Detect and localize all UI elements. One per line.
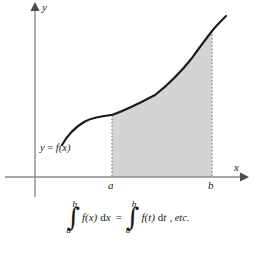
right-integral-lower-limit: a xyxy=(126,225,131,235)
left-integrand: f(x) xyxy=(82,211,97,223)
integral-figure: y x a b y = f(x) b ∫ a f(x) dx = b ∫ a f… xyxy=(0,0,255,257)
curve-label-equals: = xyxy=(45,142,56,153)
right-differential-var: t xyxy=(163,211,166,223)
y-axis-arrowhead xyxy=(30,2,39,11)
right-integrand: f(t) xyxy=(141,211,154,223)
x-axis-label: x xyxy=(234,162,239,173)
equation-equals-sign: = xyxy=(116,211,122,223)
right-differential: dt xyxy=(158,211,167,223)
tick-label-a: a xyxy=(108,180,114,191)
equation-inner: b ∫ a f(x) dx = b ∫ a f(t) dt , etc. xyxy=(65,200,189,234)
integral-equation-caption: b ∫ a f(x) dx = b ∫ a f(t) dt , etc. xyxy=(0,200,255,234)
curve-label-arg: (x) xyxy=(59,142,71,153)
left-differential-var: x xyxy=(106,211,111,223)
left-integral-upper-limit: b xyxy=(72,199,77,209)
shaded-area-region xyxy=(112,31,212,177)
y-axis-label: y xyxy=(42,2,47,13)
left-integral-lower-limit: a xyxy=(66,225,71,235)
tick-label-b: b xyxy=(208,180,214,191)
right-integral-group: b ∫ a xyxy=(126,200,140,234)
left-differential: dx xyxy=(100,211,110,223)
left-integral-group: b ∫ a xyxy=(66,200,80,234)
right-integral-upper-limit: b xyxy=(132,199,137,209)
equation-trailing-text: , etc. xyxy=(169,212,189,223)
curve-equation-label: y = f(x) xyxy=(40,143,70,154)
x-axis-arrowhead xyxy=(240,172,249,181)
